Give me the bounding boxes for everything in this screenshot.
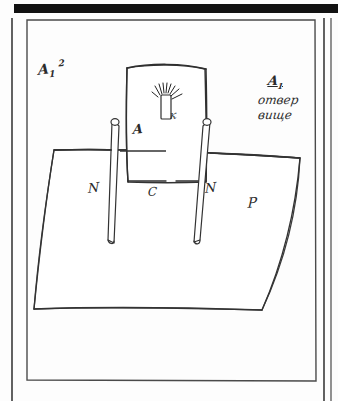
label-rail-right-n: N	[205, 180, 216, 195]
label-body-p: P	[247, 195, 257, 211]
annotation-top-left-trailing: 2	[58, 58, 65, 69]
annotation-right-line3: вище	[257, 108, 333, 122]
scanned-page: A12 A1 отвер вище A к N N C P	[0, 0, 338, 401]
annotation-right-line2: отвер	[257, 93, 333, 107]
annotation-top-left: A12	[38, 59, 65, 81]
left-rail-pivot-cap	[111, 119, 119, 126]
annotation-top-left-subscript: 1	[49, 68, 56, 79]
annotation-top-left-letter: A	[38, 60, 49, 77]
label-center-c: C	[148, 186, 158, 199]
annotation-right-heading-subscript: 1	[277, 81, 284, 91]
label-panel-a: A	[133, 122, 143, 137]
annotation-right-heading: A1	[267, 73, 333, 91]
label-slot-k: к	[170, 110, 177, 122]
label-rail-left-n: N	[88, 180, 99, 195]
right-rail-pivot-cap	[203, 119, 211, 126]
scan-edge-bar	[14, 4, 338, 13]
annotation-right-note: A1 отвер вище	[258, 73, 332, 122]
